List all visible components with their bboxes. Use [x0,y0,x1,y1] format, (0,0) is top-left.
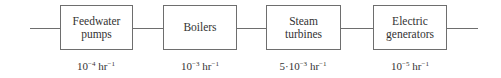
failure-rate-electric-generators: 10−5 hr−1 [365,60,455,72]
block-label-line: Steam [285,15,322,28]
block-electric-generators: Electric generators [373,5,447,50]
failure-rate-steam-turbines: 5·10−3 hr−1 [258,60,348,72]
connector-1-2 [132,28,163,29]
connector-3-4 [340,28,373,29]
output-connector [446,28,478,29]
connector-2-3 [236,28,266,29]
block-label-line: generators [386,28,434,41]
block-label-line: Feedwater [73,15,121,28]
block-label-line: turbines [285,28,322,41]
failure-rate-boilers: 10−3 hr−1 [155,60,245,72]
input-connector [30,28,60,29]
block-label-line: Electric [386,15,434,28]
block-boilers: Boilers [163,5,237,50]
block-label-line: pumps [73,28,121,41]
failure-rate-feedwater-pumps: 10−4 hr−1 [51,60,141,72]
block-steam-turbines: Steam turbines [266,5,341,50]
block-feedwater-pumps: Feedwater pumps [60,5,133,50]
block-label-line: Boilers [183,21,216,34]
